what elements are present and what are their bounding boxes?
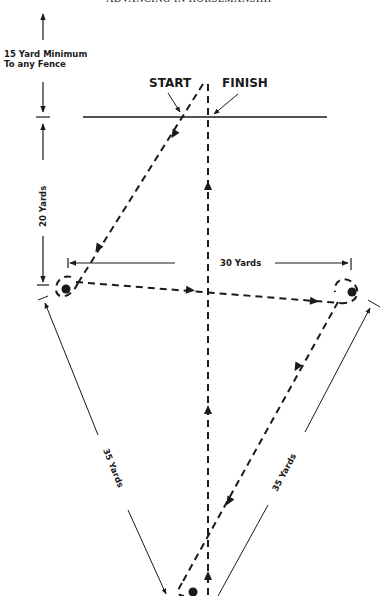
bottom-marker xyxy=(189,588,198,596)
start-label: START xyxy=(149,76,192,90)
thirty-yard-label: 30 Yards xyxy=(220,258,261,268)
min-distance-label-2: To any Fence xyxy=(4,59,66,69)
left-35-yard-label: 35 Yards xyxy=(101,447,126,489)
right-marker xyxy=(348,288,357,297)
pattern-diagram: 15 Yard Minimum To any Fence START FINIS… xyxy=(0,0,380,596)
twenty-yard-label: 20 Yards xyxy=(38,186,48,227)
finish-pointer xyxy=(214,94,238,114)
min-distance-label-1: 15 Yard Minimum xyxy=(4,49,87,59)
left-marker xyxy=(62,285,71,294)
right-35-yard-label: 35 Yards xyxy=(270,452,298,493)
direction-arrows xyxy=(92,128,319,580)
ride-path xyxy=(56,84,357,596)
finish-label: FINISH xyxy=(222,76,268,90)
thirty-yard-dimension xyxy=(68,258,351,270)
start-pointer xyxy=(168,93,180,112)
right-35-yard-dimension xyxy=(218,300,380,596)
left-35-yard-dimension xyxy=(38,296,166,594)
